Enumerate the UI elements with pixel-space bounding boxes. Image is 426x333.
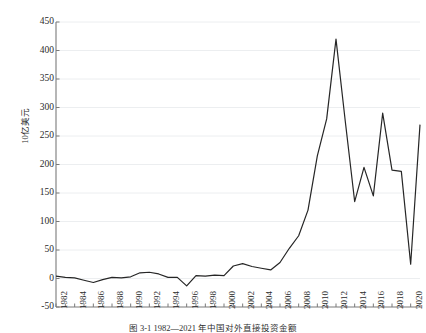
x-tick-label: 2006	[284, 291, 293, 309]
x-tick-label: 2018	[396, 291, 405, 309]
x-tick-label: 1986	[97, 291, 106, 309]
x-tick-label: 1998	[209, 291, 218, 309]
x-tick-label: 1982	[60, 291, 69, 309]
x-tick-label: 2020	[415, 291, 424, 309]
x-tick-label: 1984	[79, 291, 88, 309]
x-tick-label: 1988	[116, 291, 125, 309]
x-tick-label: 2008	[303, 291, 312, 309]
x-tick-label: 2014	[359, 291, 368, 309]
x-tick-label: 1992	[153, 291, 162, 309]
x-tick-label: 2002	[247, 291, 256, 309]
x-tick-label: 2010	[321, 291, 330, 309]
x-tick-label: 2016	[377, 291, 386, 309]
x-tick-label: 2012	[340, 291, 349, 309]
x-tick-label: 2004	[265, 291, 274, 309]
figure-caption: 图 3-1 1982—2021 年中国对外直接投资金额	[0, 321, 426, 333]
x-tick-label: 1990	[135, 291, 144, 309]
x-tick-label: 2000	[228, 291, 237, 309]
x-tick-label: 1996	[191, 291, 200, 309]
x-tick-label: 1994	[172, 291, 181, 309]
